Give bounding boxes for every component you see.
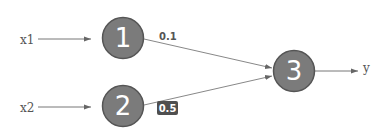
node-1-label: 1 (115, 23, 132, 53)
edge-node2-to-node3 (144, 76, 272, 105)
node-3-label: 3 (286, 56, 303, 86)
neural-network-diagram: x1 x2 1 2 3 0.1 0.5 y (0, 0, 391, 136)
weight-badge-node2-node3: 0.5 (157, 101, 178, 115)
input-label-x2: x2 (20, 101, 34, 115)
node-3: 3 (274, 51, 315, 92)
weight-label-node1-node3: 0.1 (159, 31, 177, 42)
input-label-x1: x1 (20, 33, 34, 47)
node-2-label: 2 (115, 91, 132, 121)
node-1: 1 (103, 18, 144, 59)
weight-label-node2-node3: 0.5 (159, 103, 177, 114)
output-label-y: y (362, 61, 370, 75)
node-2: 2 (103, 86, 144, 127)
edge-node1-to-node3 (144, 39, 272, 68)
